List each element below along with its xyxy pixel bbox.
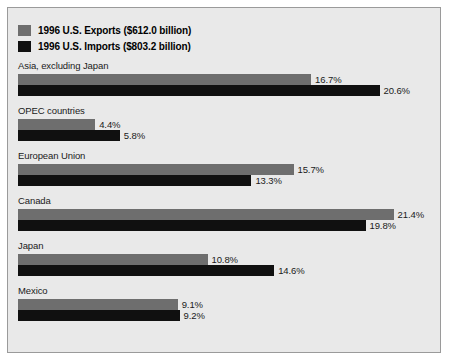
bar-row: 19.8% — [18, 220, 434, 231]
bar-group-label: European Union — [18, 150, 434, 161]
bar-group-label: Canada — [18, 195, 434, 206]
bar-group: OPEC countries4.4%5.8% — [18, 105, 434, 141]
bar-imports — [18, 265, 274, 276]
bar-row: 9.1% — [18, 299, 434, 310]
bar-row: 9.2% — [18, 310, 434, 321]
bar-group-label: Mexico — [18, 285, 434, 296]
bar-row: 21.4% — [18, 209, 434, 220]
legend-item-exports: 1996 U.S. Exports ($612.0 billion) — [18, 23, 418, 37]
bar-value-label: 10.8% — [212, 254, 238, 265]
bar-row: 4.4% — [18, 119, 434, 130]
bar-group: Asia, excluding Japan16.7%20.6% — [18, 60, 434, 96]
bar-row: 20.6% — [18, 85, 434, 96]
bar-exports — [18, 209, 394, 220]
bar-imports — [18, 130, 120, 141]
bar-imports — [18, 310, 180, 321]
bar-row: 15.7% — [18, 164, 434, 175]
bar-value-label: 16.7% — [315, 74, 341, 85]
bar-group: Japan10.8%14.6% — [18, 240, 434, 276]
bar-exports — [18, 74, 311, 85]
chart-panel: 1996 U.S. Exports ($612.0 billion) 1996 … — [7, 7, 441, 353]
bar-value-label: 20.6% — [384, 85, 410, 96]
bar-group-label: Japan — [18, 240, 434, 251]
legend-label-exports: 1996 U.S. Exports ($612.0 billion) — [38, 25, 191, 36]
bar-group: European Union15.7%13.3% — [18, 150, 434, 186]
bar-imports — [18, 85, 380, 96]
bar-group-label: OPEC countries — [18, 105, 434, 116]
bar-imports — [18, 175, 251, 186]
bar-value-label: 9.2% — [184, 310, 205, 321]
legend-swatch-imports-icon — [18, 41, 31, 52]
bar-row: 14.6% — [18, 265, 434, 276]
legend-label-imports: 1996 U.S. Imports ($803.2 billion) — [38, 41, 191, 52]
bar-value-label: 9.1% — [182, 299, 203, 310]
bar-row: 13.3% — [18, 175, 434, 186]
bar-group-label: Asia, excluding Japan — [18, 60, 434, 71]
bar-exports — [18, 119, 95, 130]
bar-row: 10.8% — [18, 254, 434, 265]
bar-group: Canada21.4%19.8% — [18, 195, 434, 231]
bar-imports — [18, 220, 366, 231]
bar-value-label: 15.7% — [298, 164, 324, 175]
legend-swatch-exports-icon — [18, 25, 31, 36]
bar-row: 16.7% — [18, 74, 434, 85]
chart-legend: 1996 U.S. Exports ($612.0 billion) 1996 … — [18, 23, 418, 55]
bar-value-label: 13.3% — [255, 175, 281, 186]
bar-group: Mexico9.1%9.2% — [18, 285, 434, 321]
bar-value-label: 21.4% — [398, 209, 424, 220]
bar-value-label: 4.4% — [99, 119, 120, 130]
bar-exports — [18, 254, 208, 265]
bar-exports — [18, 299, 178, 310]
bar-value-label: 5.8% — [124, 130, 145, 141]
legend-item-imports: 1996 U.S. Imports ($803.2 billion) — [18, 39, 418, 53]
bar-value-label: 19.8% — [370, 220, 396, 231]
bar-row: 5.8% — [18, 130, 434, 141]
bar-exports — [18, 164, 294, 175]
bar-value-label: 14.6% — [278, 265, 304, 276]
bar-groups: Asia, excluding Japan16.7%20.6%OPEC coun… — [18, 60, 434, 330]
